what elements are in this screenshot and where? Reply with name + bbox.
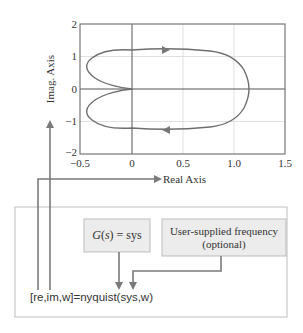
- y-tick: 1: [72, 50, 78, 62]
- x-tick: 1.5: [278, 157, 292, 169]
- direction-arrow-upper-icon: [162, 46, 170, 54]
- nyquist-diagram: 2 1 0 −1 −2 −0.5 0 0.5 1.0 1.5 Imag. Axi…: [0, 0, 303, 333]
- frequency-input-label: User-supplied frequency (optional): [162, 219, 286, 256]
- y-tick-labels: 2 1 0 −1 −2: [65, 18, 77, 158]
- direction-arrow-lower-icon: [162, 126, 170, 134]
- y-tick: 0: [72, 83, 78, 95]
- x-tick-labels: −0.5 0 0.5 1.0 1.5: [70, 157, 292, 169]
- arrow-real-axis-icon: [154, 175, 162, 183]
- y-axis-label: Imag. Axis: [44, 55, 56, 103]
- arrow-imag-axis-icon: [46, 120, 54, 128]
- origin-axes: [80, 24, 285, 154]
- x-axis-label: Real Axis: [163, 173, 206, 185]
- y-tick: −1: [65, 115, 77, 127]
- sys-input-label: G(s) = sys: [84, 219, 150, 252]
- x-tick: 0.5: [176, 157, 190, 169]
- x-tick: −0.5: [70, 157, 90, 169]
- x-tick: 1.0: [227, 157, 241, 169]
- nyquist-function-call: [re,im,w]=nyquist(sys,w): [30, 291, 153, 303]
- y-tick: 2: [72, 18, 78, 30]
- x-tick: 0: [129, 157, 135, 169]
